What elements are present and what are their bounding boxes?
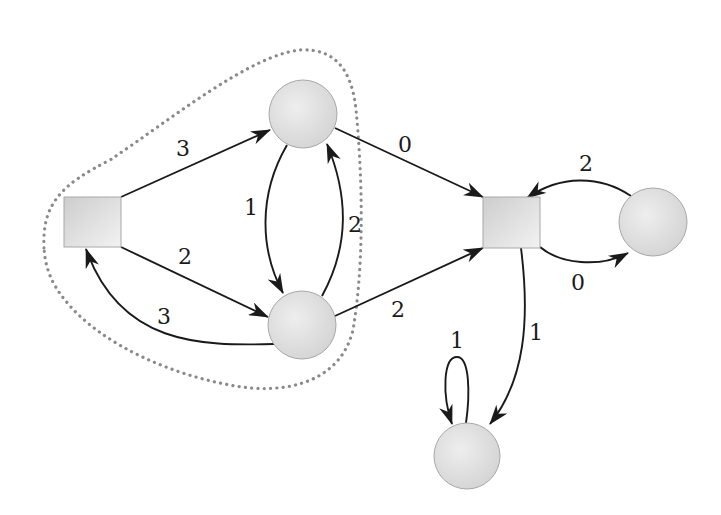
node-c-circle[interactable]	[268, 291, 336, 359]
edge-e-to-d	[527, 180, 631, 198]
weight-label-a-c: 2	[178, 244, 192, 269]
edge-b-to-c	[265, 145, 287, 293]
edge-d-to-e	[540, 247, 628, 262]
weight-label-a-b: 3	[176, 136, 190, 161]
edge-c-to-d	[335, 248, 483, 316]
weight-label-f-f: 1	[450, 328, 464, 353]
edge-a-to-c	[121, 247, 268, 317]
node-f-circle[interactable]	[434, 423, 500, 489]
weight-label-c-a: 3	[157, 304, 171, 329]
weight-label-d-e: 0	[571, 270, 585, 295]
edge-a-to-b	[121, 130, 270, 197]
weight-label-e-d: 2	[579, 151, 593, 176]
weight-label-d-f: 1	[529, 320, 543, 345]
node-e-circle[interactable]	[619, 188, 687, 256]
nodes	[64, 80, 687, 489]
weight-label-c-d: 2	[391, 297, 405, 322]
graph-diagram: 3 2 3 1 2 0 2 2 0 1 1	[0, 0, 721, 515]
edge-d-to-f	[490, 248, 525, 424]
node-a-square[interactable]	[64, 197, 121, 247]
node-d-square[interactable]	[483, 197, 540, 248]
weight-label-b-c: 1	[244, 195, 258, 220]
weight-label-b-d: 0	[398, 132, 412, 157]
edge-c-to-b	[322, 144, 343, 296]
node-b-circle[interactable]	[269, 80, 337, 148]
edge-f-self-loop	[445, 357, 468, 424]
weight-label-c-b: 2	[348, 212, 362, 237]
